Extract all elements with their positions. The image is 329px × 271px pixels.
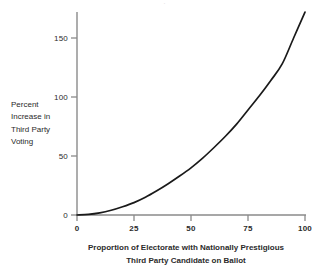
y-axis-label-line-2: Increase in (11, 111, 69, 123)
y-tick-label-150: 150 (38, 34, 68, 43)
y-axis-label-line-1: Percent (11, 99, 69, 111)
x-axis-caption-line-1: Proportion of Electorate with Nationally… (60, 241, 312, 254)
x-tick-label-0: 0 (63, 224, 91, 233)
x-axis-caption-line-2: Third Party Candidate on Ballot (60, 254, 312, 267)
y-axis-label: Percent Increase in Third Party Voting (11, 99, 69, 149)
x-tick-label-75: 75 (234, 224, 262, 233)
chart-figure: . 150 100 50 0 0 25 50 75 100 Percent In… (0, 0, 329, 271)
data-curve-third-party-voting (77, 12, 305, 215)
y-axis-label-line-4: Voting (11, 136, 69, 148)
x-tick-label-100: 100 (291, 224, 319, 233)
x-axis-caption: Proportion of Electorate with Nationally… (60, 241, 312, 267)
y-axis-label-line-3: Third Party (11, 124, 69, 136)
x-tick-label-50: 50 (177, 224, 205, 233)
y-tick-label-50: 50 (38, 152, 68, 161)
x-tick-label-25: 25 (120, 224, 148, 233)
y-tick-label-0: 0 (38, 211, 68, 220)
